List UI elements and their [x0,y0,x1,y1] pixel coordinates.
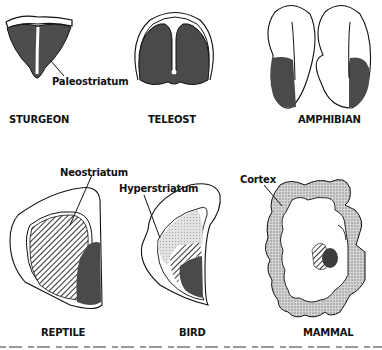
label-cortex: Cortex [240,174,276,185]
bird-brain [141,184,220,305]
sturgeon-brain [6,16,72,78]
caption-sturgeon: STURGEON [9,114,69,125]
teleost-brain [135,13,213,85]
label-neostriatum: Neostriatum [60,167,128,178]
reptile-brain [10,188,102,309]
caption-mammal: MAMMAL [303,327,354,338]
paleostriatum-pointer [50,60,64,76]
caption-amphibian: AMPHIBIAN [298,114,361,125]
label-hyperstriatum: Hyperstriatum [119,183,198,194]
mammal-brain [265,180,365,317]
label-paleostriatum: Paleostriatum [52,76,128,87]
caption-bird: BIRD [179,327,206,338]
amphibian-brain [268,5,371,108]
caption-reptile: REPTILE [41,327,85,338]
caption-teleost: TELEOST [148,114,196,125]
brain-evolution-diagram [0,0,382,350]
cut-off-figure-caption [0,343,382,350]
